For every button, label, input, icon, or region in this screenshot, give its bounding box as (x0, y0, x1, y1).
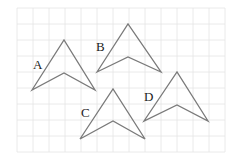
square-grid (17, 8, 225, 152)
label-a: A (33, 58, 42, 71)
arrowhead-shape-c (80, 89, 145, 139)
label-b: B (96, 40, 105, 53)
grid-canvas (0, 0, 235, 168)
label-d: D (144, 90, 153, 103)
label-c: C (81, 106, 90, 119)
arrowhead-shape-d (144, 72, 208, 121)
grid-figure: A B C D (0, 0, 235, 168)
